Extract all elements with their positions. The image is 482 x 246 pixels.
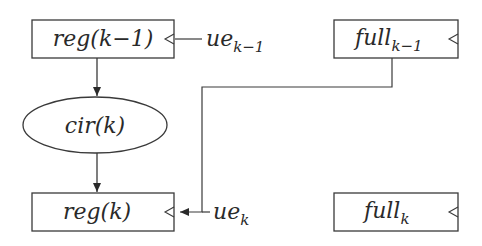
ue-cur-label: uek: [213, 199, 249, 229]
circuit-diagram: reg(k−1) uek−1 cir(k) reg(k) fullk−1 uek…: [0, 0, 482, 246]
reg-cur-node: reg(k): [32, 193, 174, 231]
full-prev-node: fullk−1: [334, 20, 458, 58]
cir-node: cir(k): [23, 97, 167, 153]
diagram-canvas: reg(k−1) uek−1 cir(k) reg(k) fullk−1 uek…: [0, 0, 482, 246]
full-cur-node: fullk: [334, 193, 458, 231]
reg-prev-node: reg(k−1): [32, 20, 174, 58]
ue-prev-label: uek−1: [206, 26, 264, 56]
reg-cur-label: reg(k): [63, 199, 131, 224]
reg-prev-label: reg(k−1): [53, 26, 154, 51]
cir-label: cir(k): [65, 113, 125, 138]
